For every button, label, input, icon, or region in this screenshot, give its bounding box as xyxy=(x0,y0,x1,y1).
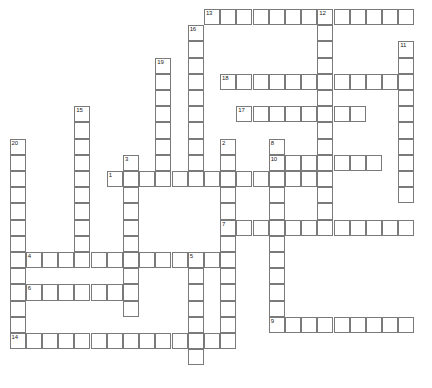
crossword-cell[interactable] xyxy=(269,301,285,317)
crossword-cell[interactable] xyxy=(10,317,26,333)
crossword-cell[interactable] xyxy=(155,122,171,138)
crossword-cell[interactable] xyxy=(301,74,317,90)
crossword-cell[interactable] xyxy=(269,106,285,122)
crossword-cell[interactable] xyxy=(269,252,285,268)
crossword-cell-start-5[interactable]: 5 xyxy=(188,252,204,268)
crossword-cell[interactable] xyxy=(42,333,58,349)
crossword-cell[interactable] xyxy=(317,41,333,57)
crossword-cell[interactable] xyxy=(188,284,204,300)
crossword-cell[interactable] xyxy=(172,171,188,187)
crossword-cell[interactable] xyxy=(317,25,333,41)
crossword-cell[interactable] xyxy=(139,333,155,349)
crossword-cell[interactable] xyxy=(220,317,236,333)
crossword-cell[interactable] xyxy=(74,252,90,268)
crossword-cell-start-10[interactable]: 10 xyxy=(269,155,285,171)
crossword-cell[interactable] xyxy=(269,187,285,203)
crossword-cell[interactable] xyxy=(155,139,171,155)
crossword-cell[interactable] xyxy=(220,252,236,268)
crossword-cell[interactable] xyxy=(382,317,398,333)
crossword-cell-start-6[interactable]: 6 xyxy=(26,284,42,300)
crossword-cell[interactable] xyxy=(317,155,333,171)
crossword-cell[interactable] xyxy=(155,90,171,106)
crossword-cell[interactable] xyxy=(317,187,333,203)
crossword-cell[interactable] xyxy=(398,58,414,74)
crossword-cell[interactable] xyxy=(58,252,74,268)
crossword-cell[interactable] xyxy=(398,187,414,203)
crossword-cell[interactable] xyxy=(220,333,236,349)
crossword-cell[interactable] xyxy=(107,284,123,300)
crossword-cell[interactable] xyxy=(123,252,139,268)
crossword-cell[interactable] xyxy=(350,155,366,171)
crossword-cell[interactable] xyxy=(107,252,123,268)
crossword-cell[interactable] xyxy=(188,90,204,106)
crossword-cell[interactable] xyxy=(350,317,366,333)
crossword-cell[interactable] xyxy=(253,74,269,90)
crossword-cell[interactable] xyxy=(317,317,333,333)
crossword-cell[interactable] xyxy=(107,333,123,349)
crossword-cell[interactable] xyxy=(301,9,317,25)
crossword-cell[interactable] xyxy=(236,9,252,25)
crossword-cell[interactable] xyxy=(10,220,26,236)
crossword-cell[interactable] xyxy=(91,284,107,300)
crossword-cell[interactable] xyxy=(236,74,252,90)
crossword-cell[interactable] xyxy=(123,236,139,252)
crossword-cell[interactable] xyxy=(366,220,382,236)
crossword-cell[interactable] xyxy=(188,41,204,57)
crossword-cell-start-9[interactable]: 9 xyxy=(269,317,285,333)
crossword-cell[interactable] xyxy=(398,317,414,333)
crossword-cell[interactable] xyxy=(285,220,301,236)
crossword-cell[interactable] xyxy=(91,252,107,268)
crossword-cell[interactable] xyxy=(172,252,188,268)
crossword-cell[interactable] xyxy=(334,74,350,90)
crossword-cell[interactable] xyxy=(10,301,26,317)
crossword-cell[interactable] xyxy=(188,155,204,171)
crossword-cell[interactable] xyxy=(398,122,414,138)
crossword-cell[interactable] xyxy=(188,58,204,74)
crossword-cell[interactable] xyxy=(317,171,333,187)
crossword-cell[interactable] xyxy=(155,333,171,349)
crossword-cell[interactable] xyxy=(139,252,155,268)
crossword-cell[interactable] xyxy=(317,106,333,122)
crossword-cell[interactable] xyxy=(269,171,285,187)
crossword-cell-start-4[interactable]: 4 xyxy=(26,252,42,268)
crossword-cell[interactable] xyxy=(398,171,414,187)
crossword-cell[interactable] xyxy=(204,333,220,349)
crossword-cell[interactable] xyxy=(398,90,414,106)
crossword-cell[interactable] xyxy=(10,252,26,268)
crossword-cell[interactable] xyxy=(317,139,333,155)
crossword-cell[interactable] xyxy=(236,220,252,236)
crossword-cell[interactable] xyxy=(301,106,317,122)
crossword-cell[interactable] xyxy=(253,9,269,25)
crossword-cell[interactable] xyxy=(58,284,74,300)
crossword-cell[interactable] xyxy=(398,9,414,25)
crossword-cell[interactable] xyxy=(188,171,204,187)
crossword-cell[interactable] xyxy=(155,171,171,187)
crossword-cell[interactable] xyxy=(42,252,58,268)
crossword-cell[interactable] xyxy=(10,284,26,300)
crossword-cell[interactable] xyxy=(350,74,366,90)
crossword-cell[interactable] xyxy=(204,252,220,268)
crossword-cell-start-17[interactable]: 17 xyxy=(236,106,252,122)
crossword-cell[interactable] xyxy=(74,122,90,138)
crossword-cell[interactable] xyxy=(10,236,26,252)
crossword-cell[interactable] xyxy=(220,187,236,203)
crossword-cell[interactable] xyxy=(10,155,26,171)
crossword-cell[interactable] xyxy=(285,317,301,333)
crossword-cell[interactable] xyxy=(26,333,42,349)
crossword-cell-start-3[interactable]: 3 xyxy=(123,155,139,171)
crossword-cell-start-8[interactable]: 8 xyxy=(269,139,285,155)
crossword-cell[interactable] xyxy=(74,236,90,252)
crossword-cell[interactable] xyxy=(188,74,204,90)
crossword-cell[interactable] xyxy=(317,58,333,74)
crossword-cell[interactable] xyxy=(236,171,252,187)
crossword-cell-start-1[interactable]: 1 xyxy=(107,171,123,187)
crossword-cell[interactable] xyxy=(155,74,171,90)
crossword-cell[interactable] xyxy=(188,122,204,138)
crossword-cell[interactable] xyxy=(74,171,90,187)
crossword-cell[interactable] xyxy=(74,187,90,203)
crossword-cell[interactable] xyxy=(398,220,414,236)
crossword-cell[interactable] xyxy=(350,106,366,122)
crossword-cell[interactable] xyxy=(285,106,301,122)
crossword-cell[interactable] xyxy=(382,9,398,25)
crossword-cell[interactable] xyxy=(220,9,236,25)
